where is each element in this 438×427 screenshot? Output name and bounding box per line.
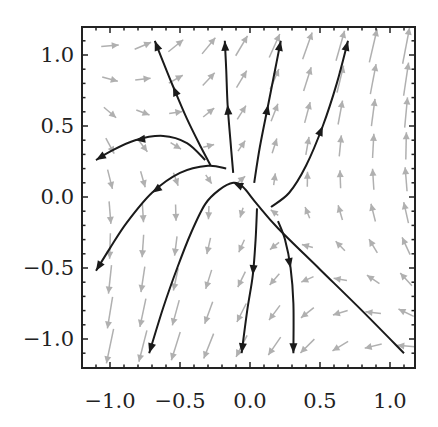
field-arrow-icon	[205, 175, 212, 184]
field-arrow-icon	[107, 201, 114, 223]
field-arrow-icon	[367, 275, 380, 283]
field-arrow-icon	[105, 297, 112, 328]
field-arrow-icon	[168, 40, 183, 52]
trajectory-upper-left-curve-up	[155, 41, 211, 166]
field-arrow-icon	[204, 270, 211, 289]
field-arrow-icon	[300, 339, 314, 353]
field-arrow-icon	[399, 309, 414, 316]
field-arrow-icon	[371, 99, 378, 126]
field-arrow-icon	[268, 337, 280, 355]
field-arrow-icon	[301, 308, 314, 318]
field-arrow-icon	[271, 104, 279, 121]
field-arrow-icon	[104, 107, 116, 117]
field-arrow-icon	[370, 134, 377, 158]
x-tick-label: 0.5	[303, 389, 336, 413]
field-arrow-icon	[172, 204, 179, 220]
axis-ticks	[82, 27, 415, 368]
field-arrow-icon	[171, 142, 181, 149]
field-arrow-icon	[169, 109, 182, 116]
field-arrow-icon	[237, 71, 247, 88]
field-arrow-icon	[400, 273, 412, 286]
field-arrow-icon	[402, 167, 409, 191]
arrowhead-icon	[285, 257, 293, 268]
x-tick-label: −1.0	[85, 389, 136, 413]
field-arrow-icon	[106, 265, 113, 293]
field-arrow-icon	[304, 137, 311, 155]
field-arrow-icon	[334, 276, 347, 283]
field-arrow-icon	[107, 170, 114, 189]
y-axis-tick-labels: 1.0 0.5 0.0 −0.5 −1.0	[23, 43, 74, 351]
field-arrow-icon	[138, 299, 146, 327]
field-arrow-icon	[269, 305, 280, 320]
y-tick-label: −1.0	[23, 327, 74, 351]
field-arrow-icon	[203, 334, 214, 359]
field-arrow-icon	[140, 171, 147, 187]
field-arrow-icon	[333, 310, 348, 317]
arrowhead-icon	[262, 105, 270, 116]
field-arrow-icon	[304, 67, 313, 91]
arrowhead-icon	[96, 260, 105, 271]
field-arrow-icon	[369, 169, 376, 190]
arrowhead-icon	[315, 126, 323, 137]
field-arrow-icon	[101, 42, 119, 49]
field-arrow-icon	[304, 207, 310, 218]
field-arrow-icon	[301, 276, 313, 282]
field-arrow-icon	[135, 76, 150, 83]
field-arrow-icon	[203, 108, 214, 117]
field-arrow-icon	[270, 242, 279, 249]
y-tick-label: 1.0	[41, 43, 74, 67]
field-arrow-icon	[402, 237, 410, 254]
arrowhead-icon	[233, 183, 244, 191]
field-arrow-icon	[402, 202, 409, 223]
field-arrow-icon	[172, 236, 179, 255]
field-arrow-icon	[135, 42, 151, 50]
trajectory-center-up	[221, 41, 233, 173]
field-arrow-icon	[271, 210, 279, 217]
y-tick-label: 0.0	[41, 185, 74, 209]
arrowhead-icon	[96, 151, 107, 160]
x-tick-label: −0.5	[155, 389, 206, 413]
field-arrow-icon	[239, 208, 246, 218]
field-arrow-icon	[238, 176, 246, 183]
field-arrow-icon	[337, 170, 344, 188]
field-arrow-icon	[337, 135, 344, 156]
arrowhead-icon	[342, 41, 350, 52]
arrowhead-icon	[148, 342, 156, 353]
field-arrow-icon	[202, 38, 215, 54]
field-arrow-icon	[305, 102, 312, 123]
trajectories	[96, 41, 404, 353]
arrowhead-icon	[289, 343, 297, 353]
field-arrow-icon	[336, 241, 345, 251]
x-axis-tick-labels: −1.0 −0.5 0.0 0.5 1.0	[85, 389, 407, 413]
field-arrow-icon	[203, 143, 214, 150]
arrowhead-icon	[221, 41, 229, 51]
phase-portrait-chart: −1.0 −0.5 0.0 0.5 1.0 1.0 0.5 0.0 −0.5 −…	[0, 0, 438, 427]
y-tick-label: −0.5	[23, 256, 74, 280]
field-arrow-icon	[203, 73, 215, 86]
arrowhead-icon	[155, 41, 162, 52]
field-arrow-icon	[204, 302, 213, 324]
field-arrow-icon	[369, 29, 379, 62]
field-arrow-icon	[404, 63, 411, 96]
field-arrow-icon	[102, 76, 118, 83]
field-arrow-icon	[337, 205, 344, 220]
field-arrow-icon	[171, 300, 179, 325]
trajectory-right-down	[278, 221, 297, 353]
y-tick-label: 0.5	[41, 114, 74, 138]
field-arrow-icon	[205, 238, 212, 254]
field-arrow-icon	[236, 36, 248, 56]
field-arrow-icon	[237, 303, 246, 322]
plot-frame	[82, 27, 415, 368]
field-arrow-icon	[136, 109, 149, 116]
field-arrow-icon	[403, 97, 410, 127]
field-arrow-icon	[369, 239, 377, 253]
field-arrow-icon	[403, 28, 412, 64]
arrowhead-icon	[135, 135, 145, 143]
arrowhead-icon	[173, 86, 181, 97]
field-arrow-icon	[304, 172, 311, 187]
field-arrow-icon	[237, 106, 246, 120]
field-arrow-icon	[139, 267, 146, 292]
trajectory-left-arc-lower	[96, 166, 226, 271]
field-arrow-icon	[370, 64, 378, 94]
field-arrow-icon	[369, 204, 376, 222]
